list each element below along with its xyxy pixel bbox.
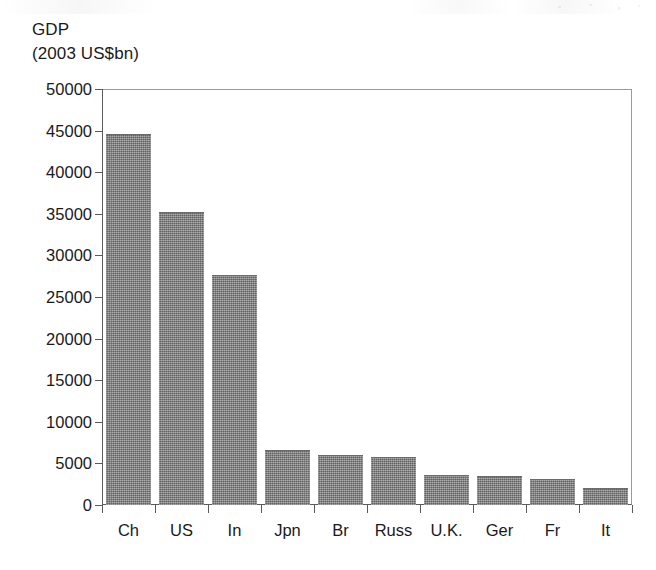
- x-axis-tick-mark: [314, 505, 315, 513]
- x-axis-tick-mark: [261, 505, 262, 513]
- bar-us[interactable]: [159, 212, 204, 505]
- bar-jpn[interactable]: [265, 450, 310, 505]
- bar-fr[interactable]: [530, 479, 575, 505]
- y-axis-tick-label: 20000: [0, 331, 92, 347]
- bar-in[interactable]: [212, 275, 257, 505]
- x-axis-tick-mark: [367, 505, 368, 513]
- bar-russ[interactable]: [371, 457, 416, 505]
- y-axis-tick-mark: [95, 463, 103, 464]
- x-axis-tick-label-uk: U.K.: [430, 521, 462, 539]
- x-axis-tick-mark: [579, 505, 580, 513]
- y-axis-tick-label: 40000: [0, 164, 92, 180]
- x-axis-tick-mark: [208, 505, 209, 513]
- y-axis-tick-label: 10000: [0, 414, 92, 430]
- y-axis-tick-mark: [95, 339, 103, 340]
- gdp-bar-chart: 0500010000150002000025000300003500040000…: [0, 0, 656, 570]
- x-axis-tick-mark: [632, 505, 633, 513]
- x-axis-tick-label-ch: Ch: [118, 521, 139, 539]
- y-axis-tick-mark: [95, 172, 103, 173]
- x-axis-tick-label-jpn: Jpn: [274, 521, 301, 539]
- x-axis-tick-label-fr: Fr: [545, 521, 561, 539]
- y-axis-tick-label: 0: [0, 497, 92, 513]
- x-axis-tick-label-russ: Russ: [375, 521, 413, 539]
- y-axis-tick-label: 50000: [0, 81, 92, 97]
- x-axis-tick-label-it: It: [601, 521, 610, 539]
- bar-ch[interactable]: [106, 134, 151, 505]
- y-axis-tick-mark: [95, 422, 103, 423]
- x-axis-tick-label-br: Br: [332, 521, 349, 539]
- y-axis-tick-label: 45000: [0, 123, 92, 139]
- y-axis-tick-mark: [95, 214, 103, 215]
- y-axis-tick-mark: [95, 255, 103, 256]
- x-axis-tick-label-us: US: [170, 521, 193, 539]
- x-axis-tick-mark: [473, 505, 474, 513]
- bar-ger[interactable]: [477, 476, 522, 505]
- x-axis-tick-label-in: In: [228, 521, 242, 539]
- x-axis-tick-label-ger: Ger: [486, 521, 514, 539]
- x-axis-tick-mark: [420, 505, 421, 513]
- x-axis-tick-mark: [526, 505, 527, 513]
- y-axis-tick-label: 30000: [0, 247, 92, 263]
- bar-uk[interactable]: [424, 475, 469, 505]
- y-axis-tick-label: 5000: [0, 455, 92, 471]
- y-axis-tick-mark: [95, 131, 103, 132]
- y-axis-tick-mark: [95, 380, 103, 381]
- y-axis-tick-label: 25000: [0, 289, 92, 305]
- y-axis-tick-mark: [95, 89, 103, 90]
- bar-it[interactable]: [583, 488, 628, 505]
- x-axis-tick-mark-origin: [102, 505, 103, 513]
- y-axis-tick-mark: [95, 297, 103, 298]
- y-axis-tick-label: 35000: [0, 206, 92, 222]
- x-axis-tick-mark: [155, 505, 156, 513]
- y-axis-tick-label: 15000: [0, 372, 92, 388]
- bar-br[interactable]: [318, 455, 363, 505]
